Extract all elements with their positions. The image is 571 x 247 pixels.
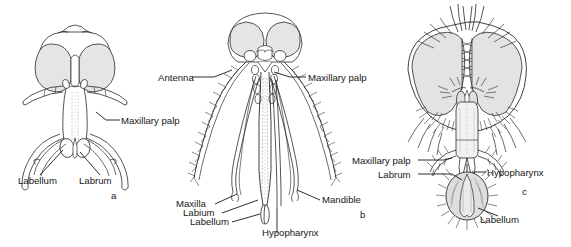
panel-b-label-labellum: Labellum <box>190 216 229 227</box>
panel-a-label-labellum: Labellum <box>18 175 57 186</box>
panel-a-label-labrum: Labrum <box>79 175 112 186</box>
mouthparts-figure-svg: Maxillary palp Labellum Labrum a <box>0 0 571 247</box>
panel-b-label-maxillary-palp: Maxillary palp <box>308 72 367 83</box>
panel-c-label-hypopharynx: Hypopharynx <box>487 167 544 178</box>
figure-container: Maxillary palp Labellum Labrum a <box>0 0 571 247</box>
panel-b-label-antenna: Antenna <box>158 72 194 83</box>
panel-b-letter: b <box>360 209 365 220</box>
panel-b-label-hypopharynx: Hypopharynx <box>262 227 319 238</box>
panel-c-label-maxillary-palp: Maxillary palp <box>352 155 411 166</box>
panel-a-label-maxillary-palp: Maxillary palp <box>121 115 180 126</box>
panel-a-letter: a <box>111 190 117 201</box>
panel-c-label-labellum: Labellum <box>480 214 519 225</box>
panel-b-label-mandible: Mandible <box>322 194 361 205</box>
panel-c-label-labrum: Labrum <box>378 169 411 180</box>
panel-c-letter: c <box>522 186 527 197</box>
